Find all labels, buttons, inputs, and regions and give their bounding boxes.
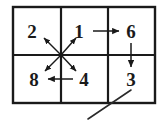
cell-label-6: 6 bbox=[126, 21, 136, 42]
diagram-canvas: 2 1 6 8 4 3 bbox=[0, 0, 168, 126]
grid-diagram-figure: 2 1 6 8 4 3 bbox=[0, 0, 168, 126]
cell-label-3: 3 bbox=[126, 69, 136, 90]
cell-label-4: 4 bbox=[79, 69, 89, 90]
cell-label-2: 2 bbox=[27, 21, 37, 42]
cell-label-8: 8 bbox=[29, 69, 39, 90]
